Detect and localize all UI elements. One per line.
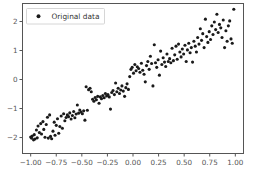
data-point — [100, 97, 103, 100]
data-point — [108, 95, 111, 98]
data-point — [132, 72, 135, 75]
data-point — [164, 65, 167, 68]
data-point — [151, 84, 154, 87]
data-point — [190, 46, 193, 49]
data-point — [73, 116, 76, 119]
data-point — [40, 133, 43, 136]
data-point — [177, 43, 180, 46]
y-tick-label: 0 — [13, 75, 18, 84]
data-point — [97, 102, 100, 105]
data-point — [196, 36, 199, 39]
data-point — [191, 61, 194, 64]
data-point — [145, 64, 148, 67]
data-point — [117, 87, 120, 90]
data-point — [168, 57, 171, 60]
data-point — [122, 90, 125, 93]
data-point — [192, 40, 195, 43]
data-point — [214, 28, 217, 31]
data-point — [148, 68, 151, 71]
data-point — [158, 74, 161, 77]
data-point — [185, 60, 188, 63]
data-point — [218, 23, 221, 26]
data-point — [43, 136, 46, 139]
data-point — [48, 113, 51, 116]
data-point — [71, 114, 74, 117]
data-point — [163, 61, 166, 64]
x-tick-label: 0.25 — [151, 158, 167, 167]
data-point — [215, 13, 218, 16]
data-point — [82, 109, 85, 112]
x-tick-label: −1.00 — [20, 158, 42, 167]
data-point — [42, 128, 45, 131]
data-point — [211, 33, 214, 36]
data-point — [162, 56, 165, 59]
data-point — [57, 132, 60, 135]
data-point — [149, 55, 152, 58]
data-point — [176, 58, 179, 61]
data-point — [223, 46, 226, 49]
data-point — [70, 117, 73, 120]
scatter-plot-canvas: −1.00−0.75−0.50−0.250.000.250.500.751.00… — [0, 0, 253, 185]
data-point — [217, 31, 220, 34]
data-point — [90, 90, 93, 93]
data-point — [150, 62, 153, 65]
data-point — [68, 111, 71, 114]
data-point — [144, 80, 147, 83]
data-point — [153, 43, 156, 46]
data-point — [189, 51, 192, 54]
x-tick-label: 0.75 — [202, 158, 218, 167]
y-tick-label: 2 — [13, 17, 18, 26]
data-point — [205, 35, 208, 38]
data-point — [138, 71, 141, 74]
data-point — [62, 112, 65, 115]
data-point — [201, 32, 204, 35]
data-point — [126, 82, 129, 85]
data-point — [109, 108, 112, 111]
x-tick-label: −0.75 — [45, 158, 67, 167]
legend-label: Original data — [52, 12, 100, 21]
data-point — [35, 128, 38, 131]
data-point — [131, 66, 134, 69]
data-point — [157, 58, 160, 61]
data-point — [37, 124, 40, 127]
data-point — [51, 130, 54, 133]
data-point — [41, 120, 44, 123]
data-point — [85, 85, 88, 88]
x-tick-label: 0.50 — [176, 158, 192, 167]
data-point — [186, 48, 189, 51]
data-point — [224, 29, 227, 32]
data-point — [56, 117, 59, 120]
x-tick-label: 1.00 — [227, 158, 243, 167]
data-point — [81, 112, 84, 115]
data-point — [154, 61, 157, 64]
data-point — [231, 42, 234, 45]
data-point — [219, 26, 222, 29]
data-point — [180, 55, 183, 58]
x-tick-label: 0.00 — [125, 158, 141, 167]
data-point — [124, 86, 127, 89]
data-point — [113, 93, 116, 96]
data-point — [67, 115, 70, 118]
data-point — [227, 24, 230, 27]
chart-legend: Original data — [27, 9, 105, 25]
data-point — [72, 110, 75, 113]
data-point — [55, 124, 58, 127]
data-point — [160, 63, 163, 66]
data-point — [220, 36, 223, 39]
data-point — [228, 19, 231, 22]
data-point — [127, 88, 130, 91]
data-point — [123, 95, 126, 98]
data-point — [118, 92, 121, 95]
data-point — [95, 98, 98, 101]
data-point — [165, 52, 168, 55]
data-point — [63, 119, 66, 122]
data-point — [174, 45, 177, 48]
data-point — [229, 37, 232, 40]
data-point — [208, 30, 211, 33]
data-point — [159, 50, 162, 53]
data-point — [204, 18, 207, 21]
y-tick-label: −2 — [7, 133, 18, 142]
data-point — [206, 41, 209, 44]
data-point — [210, 24, 213, 27]
data-point — [143, 73, 146, 76]
